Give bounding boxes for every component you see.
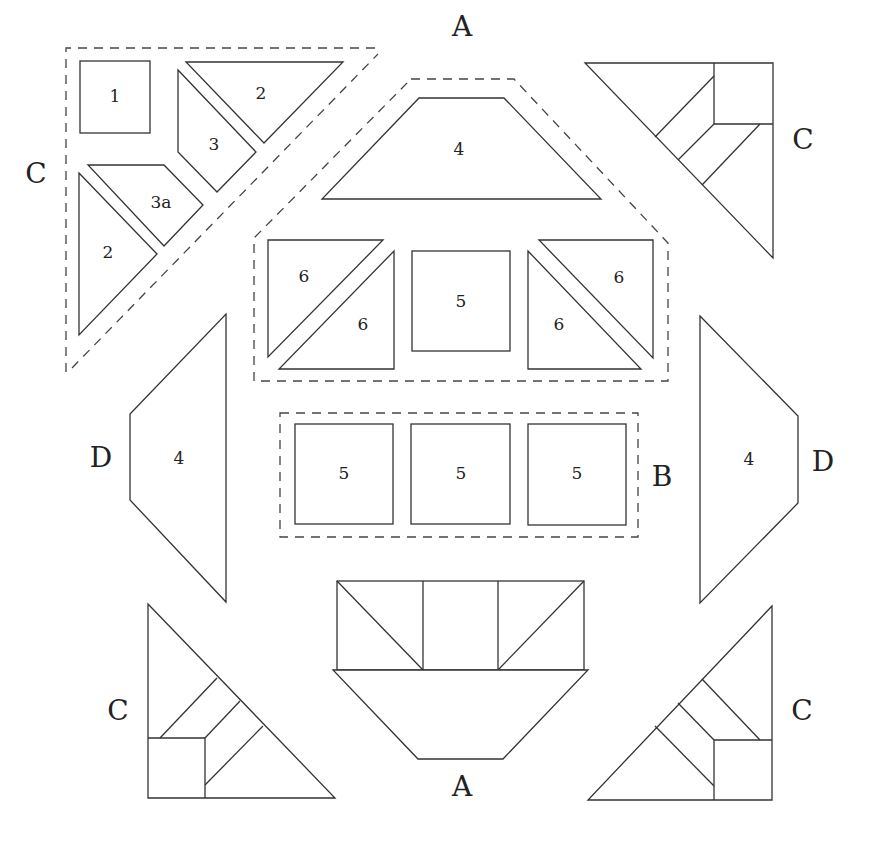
block-label-c-top-left: C — [25, 157, 46, 190]
c-top-right-triangle — [585, 63, 773, 258]
piece-6-left-upper-label: 6 — [299, 266, 310, 286]
piece-1-label: 1 — [110, 86, 121, 106]
d-left-piece-label: 4 — [174, 448, 185, 468]
block-label-a-top: A — [451, 10, 473, 43]
b2-label: 5 — [456, 463, 467, 483]
block-label-c-bottom-right: C — [791, 694, 812, 727]
a-bottom-rect — [337, 581, 584, 670]
unit-c-top-right: C — [585, 63, 814, 258]
piece-4-label: 4 — [454, 139, 465, 159]
d-right-piece-label: 4 — [744, 449, 755, 469]
block-label-c-top-right: C — [792, 123, 813, 156]
quilt-diagram: 1 2 3 3a 2 C A 4 6 6 5 6 6 C — [0, 0, 872, 847]
unit-d-left: 4 D — [90, 314, 226, 602]
c-bottom-right-triangle — [588, 606, 772, 800]
b3-label: 5 — [572, 463, 583, 483]
piece-3-label: 3 — [209, 134, 220, 154]
b1-label: 5 — [339, 463, 350, 483]
unit-d-right: 4 D — [700, 316, 834, 603]
piece-6-right-lower-label: 6 — [554, 314, 565, 334]
piece-6-right-upper-label: 6 — [614, 267, 625, 287]
piece-2-left-label: 2 — [103, 242, 114, 262]
block-label-c-bottom-left: C — [107, 694, 128, 727]
unit-c-bottom-left: C — [107, 604, 335, 798]
c-bottom-left-triangle — [148, 604, 335, 798]
piece-5-center-label: 5 — [456, 291, 467, 311]
block-label-b: B — [652, 460, 673, 493]
block-label-d-right: D — [812, 445, 834, 478]
piece-2-top-label: 2 — [256, 83, 267, 103]
piece-3a-label: 3a — [151, 192, 172, 212]
unit-a-bottom: A — [333, 581, 588, 803]
unit-b-exploded: 5 5 5 B — [280, 413, 672, 537]
unit-c-bottom-right: C — [588, 606, 813, 800]
block-label-d-left: D — [90, 441, 112, 474]
piece-6-left-lower-label: 6 — [358, 314, 369, 334]
a-bottom-trapezoid — [333, 670, 588, 759]
block-label-a-bottom: A — [451, 770, 473, 803]
